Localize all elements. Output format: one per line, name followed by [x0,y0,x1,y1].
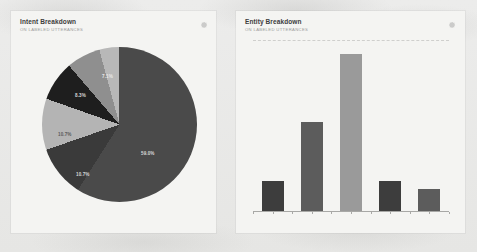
intent-panel-subtitle: ON LABELED UTTERANCES [20,27,83,32]
axis-tick [273,212,274,214]
gear-icon[interactable] [200,20,208,28]
pie-label-1: 10.7% [76,172,90,177]
pie-label-4: 7.1% [102,74,113,79]
entity-panel-title: Entity Breakdown [245,18,302,25]
bar-3 [340,54,362,211]
axis-tick [390,212,391,214]
axis-tick [331,212,332,214]
pie-label-0: 59.0% [141,151,155,156]
pie-label-3: 8.3% [75,93,86,98]
bar-2 [301,122,323,211]
pie-label-2: 10.7% [58,132,72,137]
axis-tick [253,212,254,214]
entity-bar-chart [253,40,449,212]
axis-tick [371,212,372,214]
axis-tick [351,212,352,214]
axis-tick [292,212,293,214]
axis-tick [410,212,411,214]
axis-tick [312,212,313,214]
pie-slices [42,47,197,202]
intent-breakdown-panel: Intent Breakdown ON LABELED UTTERANCES 5… [11,11,216,233]
bar-4 [379,181,401,211]
axis-tick [449,212,450,214]
bar-1 [262,181,284,211]
intent-pie-chart: 59.0% 10.7% 10.7% 8.3% 7.1% [35,41,197,221]
bar-5 [418,189,440,211]
intent-panel-title: Intent Breakdown [20,18,76,25]
entity-panel-subtitle: ON LABELED UTTERANCES [245,27,308,32]
entity-breakdown-panel: Entity Breakdown ON LABELED UTTERANCES [236,11,465,233]
gear-icon[interactable] [448,20,456,28]
gridline-top [253,40,449,41]
axis-tick [429,212,430,214]
